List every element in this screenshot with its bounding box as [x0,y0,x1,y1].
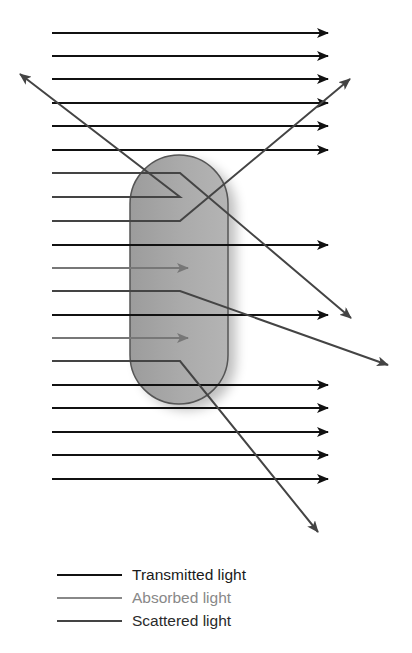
scattered-light-ray [20,74,180,197]
legend-label-transmitted: Transmitted light [132,563,246,586]
absorbed-line-swatch [57,597,122,599]
legend-item-scattered: Scattered light [57,609,246,632]
legend-label-scattered: Scattered light [132,609,231,632]
scattered-line-swatch [57,620,122,622]
legend-label-absorbed: Absorbed light [132,586,231,609]
light-interaction-diagram [0,0,412,553]
legend-item-absorbed: Absorbed light [57,586,246,609]
legend-item-transmitted: Transmitted light [57,563,246,586]
legend: Transmitted light Absorbed light Scatter… [57,563,246,632]
transmitted-line-swatch [57,574,122,576]
